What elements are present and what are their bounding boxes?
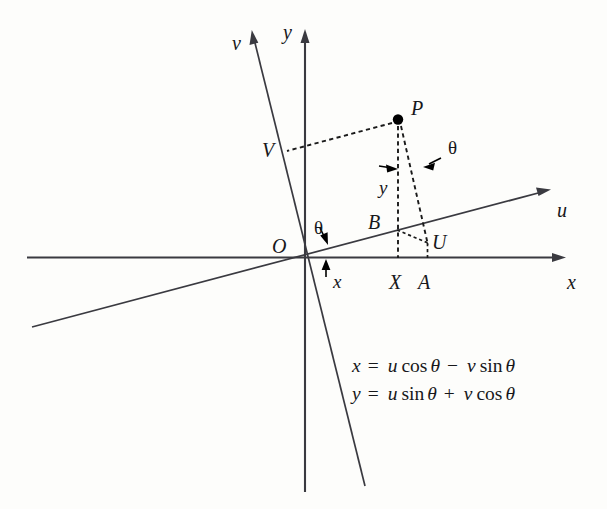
v-axis-label: v — [232, 33, 241, 53]
equation-line-1: x=ucosθ−vsinθ — [352, 352, 515, 380]
point-a-label: A — [418, 272, 430, 292]
segment-y-label: y — [379, 178, 387, 197]
eq2-equals: = — [367, 383, 380, 404]
construction-lines-group — [287, 123, 428, 258]
equation-block: x=ucosθ−vsinθ y=usinθ+vcosθ — [352, 352, 515, 409]
eq2-term1-var: u — [388, 383, 398, 404]
point-v-label: V — [262, 140, 274, 160]
dashed-p-to-v — [287, 123, 392, 151]
point-u-label: U — [432, 232, 446, 252]
eq1-term2-arg: θ — [505, 355, 515, 376]
eq1-term1-arg: θ — [430, 355, 440, 376]
diagram-canvas — [0, 0, 607, 509]
v-axis-arrowhead — [250, 30, 259, 45]
origin-label: O — [272, 236, 286, 256]
u-axis-arrowhead — [536, 188, 551, 197]
eq1-term2-fn: sin — [480, 355, 503, 376]
y-axis-label: y — [283, 22, 292, 42]
eq1-operator: − — [446, 355, 459, 376]
angle-at-p-label: θ — [448, 138, 457, 157]
eq2-term1-fn: sin — [401, 383, 424, 404]
equation-line-2: y=usinθ+vcosθ — [352, 380, 515, 408]
eq2-lhs: y — [352, 383, 361, 404]
u-axis-label: u — [557, 200, 567, 220]
point-p-marker — [393, 114, 403, 124]
eq2-term1-arg: θ — [427, 383, 437, 404]
angle-origin-label: θ — [314, 218, 323, 237]
segment-x-label: x — [333, 272, 341, 291]
point-b-label: B — [368, 212, 380, 232]
dashed-p-to-u — [401, 126, 428, 245]
v-axis-line — [254, 39, 365, 486]
eq1-term1-var: u — [388, 355, 398, 376]
x-axis-label: x — [567, 272, 576, 292]
figure-root: x y u v O P V U B X A y x θ θ x=ucosθ−vs… — [0, 0, 607, 509]
dashed-b-to-u — [397, 230, 428, 243]
angle-p-left-arrowhead — [386, 164, 398, 172]
eq2-term2-arg: θ — [505, 383, 515, 404]
eq1-term2-var: v — [467, 355, 476, 376]
angle-p-right-tick-line — [429, 158, 441, 164]
x-axis-arrowhead — [552, 253, 566, 262]
eq1-term1-fn: cos — [401, 355, 427, 376]
eq2-operator: + — [443, 383, 456, 404]
point-p-label: P — [411, 98, 423, 118]
eq2-term2-fn: cos — [476, 383, 502, 404]
u-axis-line — [32, 192, 542, 327]
angle-o-lower-arrowhead — [322, 259, 331, 270]
eq1-equals: = — [367, 355, 380, 376]
point-x-label: X — [389, 272, 401, 292]
eq2-term2-var: v — [464, 383, 473, 404]
eq1-lhs: x — [352, 355, 361, 376]
y-axis-arrowhead — [301, 29, 310, 43]
